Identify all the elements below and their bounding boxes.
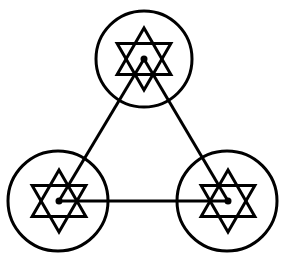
center-dot-icon	[225, 198, 232, 205]
background	[0, 0, 284, 258]
center-dot-icon	[56, 198, 63, 205]
three-hexagram-triangle-diagram	[0, 0, 284, 258]
center-dot-icon	[141, 56, 148, 63]
